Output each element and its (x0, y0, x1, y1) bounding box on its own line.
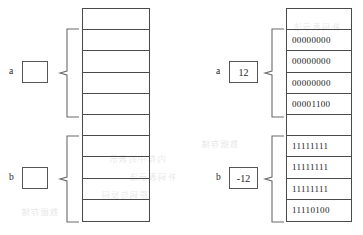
brace-b-right (262, 134, 286, 224)
bleed-text-6: 数据存储 (20, 205, 58, 217)
memory-left-cell-0 (83, 9, 149, 30)
memory-left-cell-6 (83, 136, 149, 157)
memory-left-cell-1 (83, 30, 149, 51)
memory-right-cell-4: 00001100 (287, 94, 351, 115)
memory-column-right: 0000000000000000000000000000110011111111… (286, 8, 352, 222)
memory-left-cell-7 (83, 157, 149, 178)
brace-b-left (57, 134, 81, 224)
variable-box-a-left[interactable] (22, 61, 48, 83)
memory-right-cell-1: 00000000 (287, 30, 351, 51)
memory-left-cell-2 (83, 51, 149, 72)
memory-right-cell-8: 11111111 (287, 179, 351, 200)
variable-box-a-right-value: 12 (239, 67, 249, 78)
memory-left-cell-9 (83, 200, 149, 221)
variable-box-b-right[interactable]: -12 (229, 167, 258, 189)
variable-label-b-right: b (216, 172, 221, 182)
memory-left-cell-4 (83, 94, 149, 115)
variable-label-a-left: a (9, 66, 13, 76)
memory-right-cell-6-bits: 11111111 (292, 141, 328, 151)
memory-right-cell-9-bits: 11110100 (292, 205, 330, 215)
memory-left-cell-8 (83, 179, 149, 200)
memory-right-cell-5 (287, 115, 351, 136)
memory-right-cell-2-bits: 00000000 (292, 56, 331, 66)
memory-right-cell-2: 00000000 (287, 51, 351, 72)
brace-a-right (262, 27, 286, 119)
memory-right-cell-8-bits: 11111111 (292, 184, 328, 194)
memory-left-cell-3 (83, 73, 149, 94)
memory-left-cell-5 (83, 115, 149, 136)
memory-right-cell-3: 00000000 (287, 73, 351, 94)
memory-right-cell-0 (287, 9, 351, 30)
memory-right-cell-7: 11111111 (287, 157, 351, 178)
brace-a-left (57, 27, 81, 119)
memory-right-cell-1-bits: 00000000 (292, 35, 331, 45)
memory-right-cell-9: 11110100 (287, 200, 351, 221)
variable-box-b-left[interactable] (22, 167, 48, 189)
variable-box-b-right-value: -12 (237, 173, 250, 184)
variable-box-a-right[interactable]: 12 (229, 61, 258, 83)
memory-column-left (82, 8, 150, 222)
variable-label-b-left: b (9, 172, 14, 182)
memory-right-cell-7-bits: 11111111 (292, 162, 328, 172)
variable-label-a-right: a (216, 66, 220, 76)
diagram-canvas: 内存中的表示 补码表示法 原码与反码 数据存储 补码表示法 数据存储 a b 0… (0, 0, 363, 235)
memory-right-cell-3-bits: 00000000 (292, 78, 331, 88)
memory-right-cell-4-bits: 00001100 (292, 99, 330, 109)
bleed-text-4: 数据存储 (200, 137, 238, 149)
memory-right-cell-6: 11111111 (287, 136, 351, 157)
